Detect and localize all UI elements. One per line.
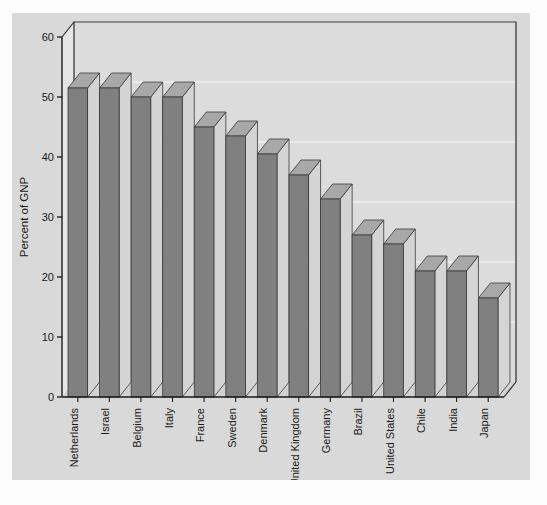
y-tick-label: 30 xyxy=(42,211,54,223)
bar-side-face[interactable] xyxy=(498,283,510,397)
bar-front-face[interactable] xyxy=(289,175,309,397)
bar-side-face[interactable] xyxy=(340,184,352,397)
y-axis-title: Percent of GNP xyxy=(18,176,30,257)
x-tick-label: Sweden xyxy=(226,408,238,448)
bar-side-face[interactable] xyxy=(88,73,100,397)
y-tick-label: 0 xyxy=(48,391,54,403)
bar-side-face[interactable] xyxy=(151,82,163,397)
bar-front-face[interactable] xyxy=(100,88,120,397)
bar-side-face[interactable] xyxy=(119,73,131,397)
bar-side-face[interactable] xyxy=(214,112,226,397)
bar-group[interactable] xyxy=(384,229,416,397)
bar-group[interactable] xyxy=(289,160,321,397)
bar-front-face[interactable] xyxy=(352,235,372,397)
bar-front-face[interactable] xyxy=(131,97,151,397)
bar-front-face[interactable] xyxy=(226,136,246,397)
x-tick-label: France xyxy=(194,408,206,442)
bar-group[interactable] xyxy=(415,256,447,397)
bar-front-face[interactable] xyxy=(384,244,404,397)
x-tick-label: Germany xyxy=(320,408,332,454)
bar-side-face[interactable] xyxy=(245,121,257,397)
bar-side-face[interactable] xyxy=(182,82,194,397)
bar-group[interactable] xyxy=(226,121,258,397)
y-tick-label: 60 xyxy=(42,31,54,43)
bar-group[interactable] xyxy=(194,112,226,397)
y-tick-label: 10 xyxy=(42,331,54,343)
y-tick-label: 50 xyxy=(42,91,54,103)
plot-area: 0102030405060Percent of GNPNetherlandsIs… xyxy=(12,13,530,480)
bar-group[interactable] xyxy=(100,73,132,397)
y-tick-label: 20 xyxy=(42,271,54,283)
x-tick-label: Belgium xyxy=(131,408,143,448)
bar-front-face[interactable] xyxy=(194,127,214,397)
bar-side-face[interactable] xyxy=(372,220,384,397)
bar-front-face[interactable] xyxy=(478,298,498,397)
bar-front-face[interactable] xyxy=(163,97,183,397)
bar-group[interactable] xyxy=(131,82,163,397)
bar-front-face[interactable] xyxy=(415,271,435,397)
bar-front-face[interactable] xyxy=(257,154,277,397)
bar-group[interactable] xyxy=(163,82,195,397)
bar-side-face[interactable] xyxy=(403,229,415,397)
x-tick-label: Italy xyxy=(163,408,175,429)
x-tick-label: United Kingdom xyxy=(289,408,301,480)
bar-side-face[interactable] xyxy=(277,139,289,397)
bar-side-face[interactable] xyxy=(435,256,447,397)
x-tick-label: Netherlands xyxy=(68,408,80,468)
bar-side-face[interactable] xyxy=(466,256,478,397)
bar-front-face[interactable] xyxy=(68,88,88,397)
y-tick-label: 40 xyxy=(42,151,54,163)
x-tick-label: Chile xyxy=(415,408,427,433)
bar-front-face[interactable] xyxy=(321,199,341,397)
x-tick-label: Israel xyxy=(99,408,111,435)
bar-front-face[interactable] xyxy=(447,271,467,397)
x-tick-label: India xyxy=(447,407,459,432)
bar-chart-svg: 0102030405060Percent of GNPNetherlandsIs… xyxy=(12,13,530,480)
chart-panel: 0102030405060Percent of GNPNetherlandsIs… xyxy=(12,13,530,480)
bar-group[interactable] xyxy=(68,73,100,397)
bar-side-face[interactable] xyxy=(309,160,321,397)
bar-group[interactable] xyxy=(478,283,510,397)
x-tick-label: Brazil xyxy=(352,408,364,436)
x-tick-label: United States xyxy=(384,408,396,475)
bar-group[interactable] xyxy=(352,220,384,397)
x-tick-label: Japan xyxy=(478,408,490,438)
bar-group[interactable] xyxy=(447,256,479,397)
x-tick-label: Denmark xyxy=(257,408,269,453)
chart-screenshot: 0102030405060Percent of GNPNetherlandsIs… xyxy=(0,0,547,505)
bar-group[interactable] xyxy=(321,184,353,397)
bar-group[interactable] xyxy=(257,139,289,397)
